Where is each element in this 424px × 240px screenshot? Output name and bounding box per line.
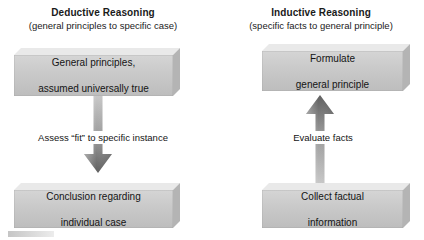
box-line-2: assumed universally true [34, 82, 153, 95]
column-title-deductive: Deductive Reasoning (general principles … [0, 7, 206, 31]
diagram-canvas: Deductive Reasoning (general principles … [0, 0, 424, 240]
box-line-1: Collect factual [297, 190, 368, 203]
box-line-2: individual case [42, 216, 145, 229]
box-line-1: Formulate [292, 52, 373, 65]
page-edge-artifact [8, 231, 54, 237]
inductive-subtitle: (specific facts to general principle) [218, 20, 424, 32]
box-right-side [403, 183, 410, 228]
box-line-2: information [297, 216, 368, 229]
box-conclusion[interactable]: Conclusion regarding individual case [14, 183, 180, 228]
box-line-1: Conclusion regarding [42, 190, 145, 203]
arrow-label-evaluate-facts: Evaluate facts [275, 131, 371, 144]
inductive-title: Inductive Reasoning [218, 7, 424, 20]
box-right-side [173, 183, 180, 228]
box-right-side [403, 44, 410, 91]
box-top-bevel [262, 44, 410, 51]
deductive-title: Deductive Reasoning [0, 7, 206, 20]
column-title-inductive: Inductive Reasoning (specific facts to g… [218, 7, 424, 31]
arrow-label-assess-fit: Assess “fit” to specific instance [10, 131, 196, 144]
box-collect-facts[interactable]: Collect factual information [262, 183, 410, 228]
deductive-subtitle: (general principles to specific case) [0, 20, 206, 32]
box-face: Collect factual information [262, 190, 403, 228]
box-top-bevel [14, 48, 180, 55]
box-face: General principles, assumed universally … [14, 55, 173, 96]
box-formulate-principle[interactable]: Formulate general principle [262, 44, 410, 91]
box-face: Conclusion regarding individual case [14, 190, 173, 228]
box-face: Formulate general principle [262, 51, 403, 91]
box-line-2: general principle [292, 78, 373, 91]
box-general-principles[interactable]: General principles, assumed universally … [14, 48, 180, 96]
box-line-1: General principles, [34, 56, 153, 69]
box-right-side [173, 48, 180, 96]
